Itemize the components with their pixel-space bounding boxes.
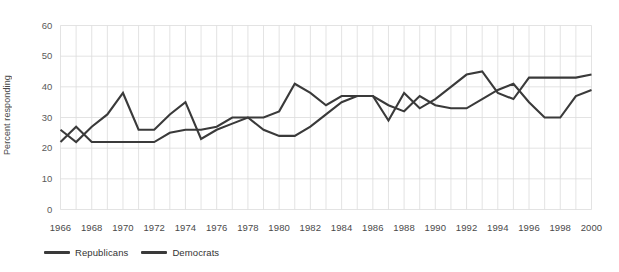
x-tick-1990: 1990 <box>418 222 452 233</box>
y-tick-30: 30 <box>27 112 53 123</box>
x-tick-2000: 2000 <box>575 222 609 233</box>
x-tick-1980: 1980 <box>262 222 296 233</box>
legend-item-republicans[interactable]: Republicans <box>44 248 128 258</box>
x-tick-1992: 1992 <box>450 222 484 233</box>
x-tick-1968: 1968 <box>75 222 109 233</box>
x-tick-1972: 1972 <box>137 222 171 233</box>
x-tick-1986: 1986 <box>356 222 390 233</box>
x-tick-1966: 1966 <box>44 222 78 233</box>
x-tick-1974: 1974 <box>168 222 202 233</box>
line-chart: Percent responding 0102030405060 1966196… <box>0 0 619 272</box>
chart-legend: RepublicansDemocrats <box>44 248 219 258</box>
x-tick-1982: 1982 <box>293 222 327 233</box>
y-tick-0: 0 <box>27 204 53 215</box>
grid-lines <box>61 26 592 210</box>
x-tick-1996: 1996 <box>512 222 546 233</box>
y-tick-20: 20 <box>27 142 53 153</box>
x-tick-1976: 1976 <box>200 222 234 233</box>
y-tick-60: 60 <box>27 20 53 31</box>
x-tick-1998: 1998 <box>543 222 577 233</box>
legend-swatch-icon <box>141 251 167 254</box>
x-tick-1978: 1978 <box>231 222 265 233</box>
x-tick-1988: 1988 <box>387 222 421 233</box>
legend-label: Republicans <box>75 248 128 258</box>
y-tick-10: 10 <box>27 173 53 184</box>
y-tick-50: 50 <box>27 50 53 61</box>
y-tick-40: 40 <box>27 81 53 92</box>
legend-item-democrats[interactable]: Democrats <box>141 248 219 258</box>
x-tick-1970: 1970 <box>106 222 140 233</box>
legend-label: Democrats <box>172 248 219 258</box>
legend-swatch-icon <box>44 251 70 254</box>
x-tick-1984: 1984 <box>325 222 359 233</box>
x-tick-1994: 1994 <box>481 222 515 233</box>
